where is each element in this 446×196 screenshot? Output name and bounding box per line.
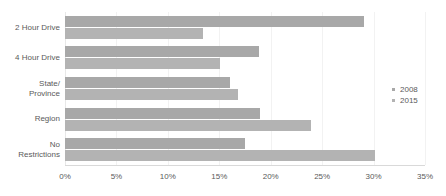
category-label-line: No (0, 140, 60, 150)
bar-group (65, 16, 425, 39)
x-tick-label: 15% (199, 172, 239, 181)
x-tick-label: 5% (96, 172, 136, 181)
gridline (425, 12, 426, 165)
x-tick-label: 0% (45, 172, 85, 181)
bar-group (65, 138, 425, 161)
category-label-line: 4 Hour Drive (0, 53, 60, 63)
legend-label: 2015 (400, 96, 418, 105)
bar-chart: 20082015 0%5%10%15%20%25%30%35%2 Hour Dr… (0, 0, 446, 196)
bar-2008 (65, 46, 259, 57)
x-tick-label: 20% (251, 172, 291, 181)
category-label: 4 Hour Drive (0, 53, 60, 63)
plot-area (65, 12, 425, 165)
bar-group (65, 108, 425, 131)
x-tick-label: 25% (302, 172, 342, 181)
bar-group (65, 77, 425, 100)
bar-2008 (65, 108, 260, 119)
x-tick-label: 30% (354, 172, 394, 181)
legend-item[interactable]: 2008 (392, 84, 418, 95)
bar-group (65, 46, 425, 69)
category-label-line: Restrictions (0, 150, 60, 160)
bar-2015 (65, 120, 311, 131)
category-label: State/Province (0, 79, 60, 98)
category-label-line: State/ (0, 79, 60, 89)
legend-label: 2008 (400, 85, 418, 94)
category-label-line: Province (0, 89, 60, 99)
x-tick-label: 35% (405, 172, 445, 181)
legend-item[interactable]: 2015 (392, 95, 418, 106)
x-axis-line (65, 165, 425, 166)
bar-2008 (65, 138, 245, 149)
legend-swatch-icon (392, 88, 395, 91)
x-tick-label: 10% (148, 172, 188, 181)
category-label-line: 2 Hour Drive (0, 23, 60, 33)
category-label: Region (0, 114, 60, 124)
legend-swatch-icon (392, 99, 395, 102)
category-label-line: Region (0, 114, 60, 124)
bar-2008 (65, 16, 364, 27)
category-label: 2 Hour Drive (0, 23, 60, 33)
bar-2015 (65, 89, 238, 100)
bar-2015 (65, 150, 375, 161)
category-label: NoRestrictions (0, 140, 60, 159)
bar-2015 (65, 58, 220, 69)
chart-legend: 20082015 (392, 84, 418, 106)
bar-2008 (65, 77, 230, 88)
bar-2015 (65, 28, 203, 39)
